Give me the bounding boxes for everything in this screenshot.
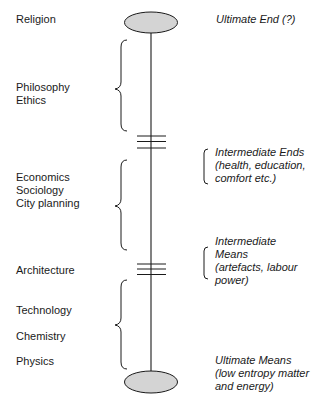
brace-economics-sociology [115, 160, 127, 250]
bracket-intermediate-ends [204, 149, 208, 184]
label-ultimate-end: Ultimate End (?) [216, 13, 295, 26]
label-technology: Technology [16, 304, 72, 317]
label-intermediate-ends-title: Intermediate Ends [215, 146, 304, 159]
bracket-intermediate-means [204, 247, 208, 279]
label-religion: Religion [16, 13, 56, 26]
label-ultimate-means-line2: (low entropy matter [215, 367, 309, 380]
label-intermediate-means-line4: power) [215, 274, 249, 287]
label-city-planning: City planning [16, 197, 80, 210]
label-intermediate-ends-line2: (health, education, [215, 159, 306, 172]
label-intermediate-means-title: Intermediate [215, 235, 276, 248]
label-philosophy: Philosophy [16, 81, 70, 94]
brace-philosophy-ethics [115, 40, 127, 131]
label-economics: Economics [16, 171, 70, 184]
label-chemistry: Chemistry [16, 330, 66, 343]
label-architecture: Architecture [16, 264, 75, 277]
label-ultimate-means-line3: and energy) [215, 380, 274, 393]
brace-technology-physics [115, 280, 127, 369]
label-ethics: Ethics [16, 94, 46, 107]
label-intermediate-means-line2: Means [215, 248, 248, 261]
label-sociology: Sociology [16, 184, 64, 197]
label-ultimate-means-title: Ultimate Means [215, 354, 291, 367]
label-intermediate-ends-line3: comfort etc.) [215, 172, 276, 185]
label-intermediate-means-line3: (artefacts, labour [215, 261, 298, 274]
label-physics: Physics [16, 355, 54, 368]
ultimate-end-ellipse [125, 12, 178, 33]
ultimate-means-ellipse [125, 371, 178, 393]
